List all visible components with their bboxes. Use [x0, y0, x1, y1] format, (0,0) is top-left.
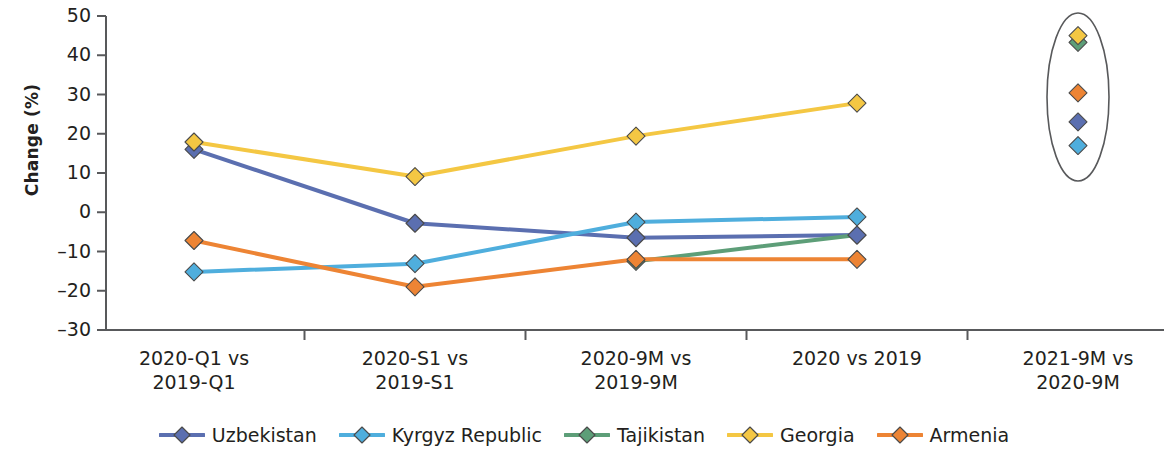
- legend-item[interactable]: Armenia: [877, 424, 1010, 446]
- data-point-marker: [185, 263, 203, 281]
- chart-legend: UzbekistanKyrgyz RepublicTajikistanGeorg…: [0, 424, 1168, 446]
- y-axis-tick-label: –10: [39, 242, 91, 261]
- data-point-marker: [1069, 137, 1087, 155]
- legend-marker-icon: [339, 424, 385, 446]
- legend-marker-icon: [727, 424, 773, 446]
- x-axis-tick-label-line1: 2020-S1 vs: [362, 347, 469, 369]
- x-axis-tick-label-line2: 2019-Q1: [84, 370, 304, 394]
- data-point-marker: [1069, 84, 1087, 102]
- x-axis-tick-label-line1: 2021-9M vs: [1023, 347, 1134, 369]
- y-axis-tick-label: 30: [39, 85, 91, 104]
- y-axis-tick-label: –30: [39, 320, 91, 339]
- y-axis-tick-label: 0: [39, 202, 91, 221]
- legend-marker-icon: [564, 424, 610, 446]
- data-point-marker: [627, 229, 645, 247]
- x-axis-tick-label-line1: 2020-9M vs: [581, 347, 692, 369]
- y-axis-tick-label: 20: [39, 124, 91, 143]
- data-point-marker: [848, 250, 866, 268]
- data-point-marker: [406, 278, 424, 296]
- legend-item[interactable]: Georgia: [727, 424, 855, 446]
- y-axis-ticks: [97, 16, 106, 330]
- data-point-marker: [185, 232, 203, 250]
- legend-marker-icon: [877, 424, 923, 446]
- x-axis-tick-label: 2020-S1 vs2019-S1: [305, 346, 525, 395]
- line-chart: Change (%) 50403020100–10–20–30 2020-Q1 …: [0, 0, 1168, 461]
- legend-item-label: Tajikistan: [617, 424, 705, 446]
- x-axis-tick-label-line2: 2019-9M: [526, 370, 746, 394]
- x-axis-tick-label: 2020-Q1 vs2019-Q1: [84, 346, 304, 395]
- series-line: [194, 103, 857, 176]
- legend-item-label: Uzbekistan: [212, 424, 317, 446]
- x-axis-tick-label: 2020-9M vs2019-9M: [526, 346, 746, 395]
- data-point-marker: [848, 94, 866, 112]
- legend-marker-icon: [159, 424, 205, 446]
- y-axis-tick-label: 40: [39, 45, 91, 64]
- data-point-marker: [1069, 113, 1087, 131]
- data-point-marker: [848, 226, 866, 244]
- data-point-marker: [406, 255, 424, 273]
- data-point-marker: [627, 127, 645, 145]
- legend-item[interactable]: Tajikistan: [564, 424, 705, 446]
- x-axis-tick-label-line2: 2019-S1: [305, 370, 525, 394]
- legend-item-label: Kyrgyz Republic: [392, 424, 542, 446]
- legend-item-label: Georgia: [780, 424, 855, 446]
- data-point-marker: [406, 168, 424, 186]
- x-axis-tick-label-line1: 2020 vs 2019: [792, 347, 922, 369]
- data-point-marker: [848, 208, 866, 226]
- series-line: [194, 217, 857, 272]
- legend-item[interactable]: Kyrgyz Republic: [339, 424, 542, 446]
- x-axis-tick-label: 2020 vs 2019: [747, 346, 967, 370]
- x-axis-tick-label-line1: 2020-Q1 vs: [139, 347, 249, 369]
- y-axis-tick-label: –20: [39, 281, 91, 300]
- legend-item-label: Armenia: [930, 424, 1010, 446]
- x-axis-ticks: [305, 330, 968, 340]
- y-axis-tick-label: 10: [39, 163, 91, 182]
- series-lines: [194, 103, 857, 287]
- data-point-marker: [627, 250, 645, 268]
- x-axis-tick-label-line2: 2020-9M: [968, 370, 1168, 394]
- series-line: [194, 149, 857, 237]
- y-axis-tick-label: 50: [39, 6, 91, 25]
- data-point-marker: [406, 214, 424, 232]
- legend-item[interactable]: Uzbekistan: [159, 424, 317, 446]
- x-axis-tick-label: 2021-9M vs2020-9M: [968, 346, 1168, 395]
